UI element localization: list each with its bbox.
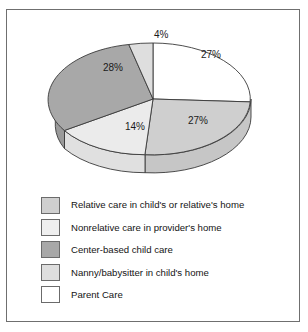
legend-label-relative-care: Relative care in child's or relative's h… [71,200,244,210]
legend-item-relative-care: Relative care in child's or relative's h… [41,194,281,216]
legend-label-nonrelative-care: Nonrelative care in provider's home [71,223,222,233]
legend-swatch-nonrelative-care [41,219,60,236]
pie-label-center-based: 28% [103,62,123,73]
legend-swatch-relative-care [41,197,60,214]
pie-chart-svg [8,11,298,186]
chart-legend: Relative care in child's or relative's h… [41,194,281,306]
legend-item-nanny-babysitter: Nanny/babysitter in child's home [41,261,281,283]
legend-label-center-based: Center-based child care [71,245,173,255]
pie-label-nonrelative-care: 14% [125,121,145,132]
pie-label-relative-care: 27% [188,115,208,126]
legend-swatch-parent-care [41,286,60,303]
legend-label-parent-care: Parent Care [71,290,123,300]
legend-swatch-center-based [41,241,60,258]
legend-item-nonrelative-care: Nonrelative care in provider's home [41,216,281,238]
pie-chart-figure: 27% 27% 14% 28% 4% Relative care in chil… [0,0,308,332]
legend-item-parent-care: Parent Care [41,284,281,306]
pie-label-parent-care: 27% [201,49,221,60]
legend-item-center-based: Center-based child care [41,239,281,261]
pie-label-nanny-babysitter: 4% [154,29,168,40]
legend-label-nanny-babysitter: Nanny/babysitter in child's home [71,268,209,278]
legend-swatch-nanny-babysitter [41,264,60,281]
pie-chart-area: 27% 27% 14% 28% 4% [8,11,298,186]
